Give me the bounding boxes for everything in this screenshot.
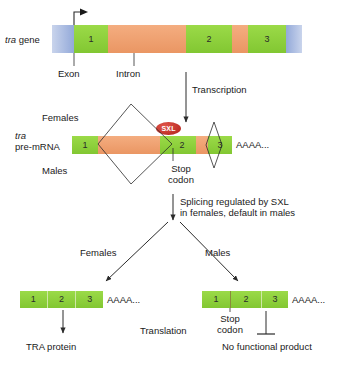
female-mrna-exon-3: 3 <box>76 291 103 308</box>
female-mrna-exon-1: 1 <box>20 291 48 308</box>
premrna-segment-exon-2: 2 <box>168 136 196 154</box>
gene-bar: 1 2 3 <box>52 25 302 53</box>
male-mrna-polya-label: AAAA... <box>292 294 325 305</box>
premrna-segment-spacer <box>160 136 168 154</box>
female-mrna-bar: 1 2 3 <box>20 291 103 308</box>
male-stop-codon-label: Stop codon <box>206 313 254 335</box>
exon-callout-label: Exon <box>58 68 80 79</box>
premrna-stop-codon-line2: codon <box>159 174 203 185</box>
gene-segment-utr-right <box>286 25 302 53</box>
connector-overlay <box>0 0 350 371</box>
figure-canvas: tra gene 1 2 3 Exon Intron Transcription… <box>0 0 350 371</box>
splicing-note-line1: Splicing regulated by SXL <box>180 196 289 207</box>
premrna-stop-codon-label: Stop codon <box>159 163 203 185</box>
male-mrna-exon-2: 2 <box>230 291 262 308</box>
premrna-polya-label: AAAA... <box>236 139 269 150</box>
tra-gene-label-italic: tra <box>5 34 16 45</box>
males-label-premrna: Males <box>42 165 67 176</box>
transcription-start-arrow-icon <box>74 9 88 25</box>
transcription-label: Transcription <box>192 84 247 95</box>
gene-segment-exon-3: 3 <box>248 25 286 53</box>
male-stop-codon-line1: Stop <box>206 313 254 324</box>
gene-segment-intron-2 <box>232 25 248 53</box>
gene-segment-utr-left <box>52 25 74 53</box>
premrna-bar: 1 2 3 <box>72 136 232 154</box>
tra-protein-label: TRA protein <box>26 341 76 352</box>
female-mrna-exon-2: 2 <box>48 291 77 308</box>
premrna-segment-intron-1 <box>98 136 160 154</box>
translation-label: Translation <box>140 325 187 336</box>
females-label-premrna: Females <box>42 112 78 123</box>
tra-gene-label-rest: gene <box>16 34 40 45</box>
branch-males-label: Males <box>205 247 230 258</box>
premrna-label-line2: pre-mRNA <box>15 141 60 152</box>
intron-callout-label: Intron <box>116 68 140 79</box>
male-mrna-bar: 1 2 3 <box>202 291 288 308</box>
gene-segment-exon-1: 1 <box>74 25 108 53</box>
premrna-segment-intron-2 <box>196 136 208 154</box>
tra-gene-label: tra gene <box>5 34 40 45</box>
female-mrna-polya-label: AAAA... <box>107 294 140 305</box>
no-functional-product-label: No functional product <box>222 341 312 352</box>
gene-segment-exon-2: 2 <box>186 25 232 53</box>
premrna-segment-exon-1: 1 <box>72 136 98 154</box>
male-stop-codon-line2: codon <box>206 324 254 335</box>
sxl-label: SXL <box>161 125 175 132</box>
male-mrna-exon-3: 3 <box>262 291 288 308</box>
gene-segment-intron-1 <box>108 25 186 53</box>
splicing-note-line2: in females, default in males <box>180 207 295 218</box>
male-mrna-stop-codon-marker <box>230 291 231 308</box>
branch-females-label: Females <box>80 247 116 258</box>
male-mrna-exon-1: 1 <box>202 291 230 308</box>
translation-blocked-tbar-icon <box>257 311 275 334</box>
premrna-segment-exon-3: 3 <box>208 136 232 154</box>
premrna-label-italic: tra <box>15 130 26 141</box>
sxl-protein-oval: SXL <box>156 122 181 135</box>
premrna-stop-codon-line1: Stop <box>159 163 203 174</box>
